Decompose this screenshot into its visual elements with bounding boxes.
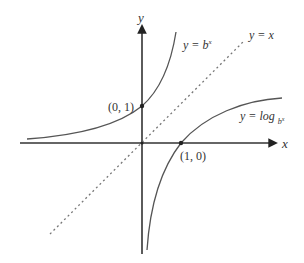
- exponential-label: y = bx: [182, 38, 212, 52]
- point-1-0-label: (1, 0): [180, 149, 206, 163]
- point-0-1-label: (0, 1): [108, 100, 134, 114]
- point-1-0: [179, 141, 183, 145]
- x-axis-label: x: [281, 136, 288, 151]
- logarithm-label: y = log bx: [239, 109, 285, 126]
- exponential-curve: [27, 32, 176, 139]
- identity-label: y = x: [248, 28, 274, 42]
- origin-point: [140, 141, 143, 144]
- identity-line: [50, 40, 245, 234]
- point-0-1: [140, 104, 144, 108]
- function-graph: y x y = bx y = x y = log bx (0, 1) (1, 0…: [0, 0, 304, 263]
- y-axis-label: y: [136, 10, 144, 25]
